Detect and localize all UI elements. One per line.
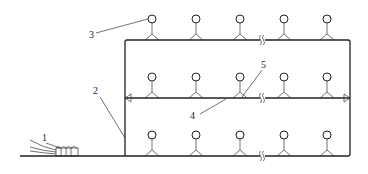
main-pipe bbox=[20, 40, 350, 156]
sprinkler-head-icon bbox=[145, 131, 159, 156]
sprinkler-head-icon bbox=[320, 73, 334, 98]
label-1: 1 bbox=[42, 132, 47, 143]
sprinkler-head-icon bbox=[145, 15, 159, 40]
break-mark-icon bbox=[260, 93, 266, 103]
break-mark-icon bbox=[260, 35, 266, 45]
sprinkler-head-icon bbox=[320, 15, 334, 40]
label-5: 5 bbox=[261, 59, 266, 70]
sprinkler-head-icon bbox=[233, 131, 247, 156]
sprinkler-heads bbox=[145, 15, 334, 156]
sprinkler-head-icon bbox=[233, 15, 247, 40]
pump-unit bbox=[30, 140, 78, 156]
sprinkler-head-icon bbox=[189, 131, 203, 156]
sprinkler-head-icon bbox=[320, 131, 334, 156]
leader-lines bbox=[46, 19, 262, 148]
label-3: 3 bbox=[89, 29, 94, 40]
sprinkler-head-icon bbox=[277, 73, 291, 98]
label-2: 2 bbox=[93, 85, 98, 96]
label-4: 4 bbox=[190, 110, 195, 121]
sprinkler-head-icon bbox=[277, 131, 291, 156]
sprinkler-head-icon bbox=[189, 73, 203, 98]
sprinkler-head-icon bbox=[189, 15, 203, 40]
sprinkler-head-icon bbox=[145, 73, 159, 98]
sprinkler-head-icon bbox=[277, 15, 291, 40]
break-mark-icon bbox=[260, 151, 266, 161]
break-marks bbox=[260, 35, 266, 161]
sprinkler-network-diagram: 1 2 3 4 5 bbox=[0, 0, 368, 174]
sprinkler-head-icon bbox=[233, 73, 247, 98]
